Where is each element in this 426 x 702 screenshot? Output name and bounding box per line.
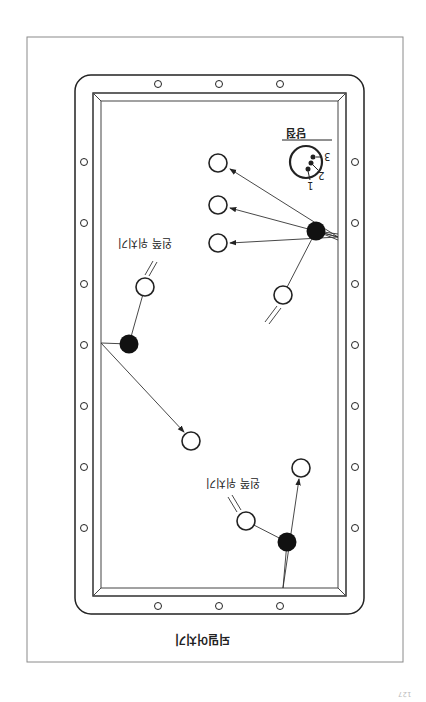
billiards-diagram — [0, 0, 426, 702]
cue-point-number-1: 1 — [307, 180, 313, 191]
figure-title: 되밀어치기 — [175, 632, 230, 649]
cue-point-label: 당점 — [286, 126, 306, 142]
diagram-page: 당점 3 2 1 왼쪽 위치기 왼쪽 위치기 되밀어치기 127 — [0, 0, 426, 702]
solid-balls — [120, 222, 326, 552]
hollow-balls — [136, 154, 310, 530]
cue-point-number-3: 3 — [324, 151, 330, 162]
cue-point-number-2: 2 — [318, 170, 324, 181]
shot-paths-2 — [101, 287, 184, 432]
cue-stick — [228, 495, 241, 512]
annotation-left: 왼쪽 위치기 — [118, 236, 172, 252]
annotation-bottom: 왼쪽 위치기 — [206, 476, 260, 492]
cue-stick — [145, 261, 157, 276]
page-number: 127 — [398, 690, 411, 698]
cue-stick — [265, 306, 281, 324]
